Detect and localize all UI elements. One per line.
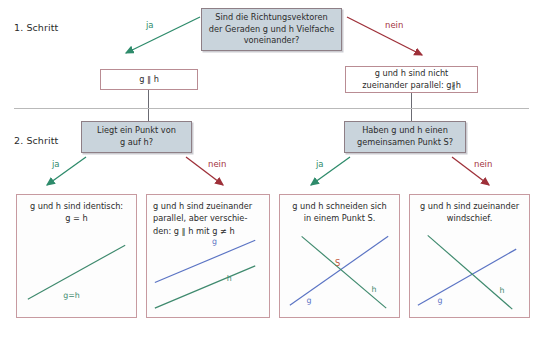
figure-label-h: h bbox=[499, 286, 504, 295]
decision-step1-line1: Sind die Richtungsvektoren bbox=[215, 12, 328, 22]
figure-intersecting: S g h bbox=[280, 195, 399, 317]
section-divider bbox=[14, 108, 529, 109]
edge-label-yes-step1: ja bbox=[146, 20, 154, 30]
decision-step2-left-line2: g auf h? bbox=[120, 137, 153, 147]
decision-step2-right-line2: gemeinsamen Punkt S? bbox=[357, 137, 453, 147]
result-box-parallel-distinct: g und h sind zueinander parallel, aber v… bbox=[146, 194, 270, 318]
figure-label-s: S bbox=[335, 258, 340, 268]
edge-label-yes-step2-right: ja bbox=[316, 159, 324, 169]
decision-step1-line2: der Geraden g und h Vielfache bbox=[209, 24, 334, 34]
arrow-yes-step1 bbox=[110, 14, 210, 64]
edge-label-no-step2-left: nein bbox=[208, 159, 226, 169]
arrow-yes-step2-right bbox=[300, 155, 360, 195]
figure-label-g: g bbox=[307, 296, 312, 305]
decision-step1-line3: voneinander? bbox=[244, 35, 300, 45]
result-box-not-parallel: g und h sind nicht zueinander parallel: … bbox=[345, 66, 478, 93]
decision-step2-left-line1: Liegt ein Punkt von bbox=[97, 125, 176, 135]
step-2-label: 2. Schritt bbox=[14, 135, 58, 146]
decision-box-step1: Sind die Richtungsvektoren der Geraden g… bbox=[201, 8, 342, 51]
result-box-identical: g und h sind identisch: g = h g=h bbox=[16, 194, 137, 318]
figure-label-g: g bbox=[212, 237, 217, 246]
decision-box-step2-left: Liegt ein Punkt von g auf h? bbox=[81, 121, 192, 153]
figure-identical: g=h bbox=[17, 195, 136, 317]
decision-step2-right-line1: Haben g und h einen bbox=[362, 125, 448, 135]
figure-skew: g h bbox=[410, 195, 529, 317]
result-box-skew: g und h sind zueinander windschief. g h bbox=[409, 194, 530, 318]
result-parallel-text: g ∥ h bbox=[139, 74, 159, 86]
figure-label-h: h bbox=[371, 285, 376, 294]
edge-label-no-step2-right: nein bbox=[474, 159, 492, 169]
arrow-yes-step2-left bbox=[36, 155, 96, 195]
connector-left-vertical bbox=[148, 90, 149, 122]
result-not-parallel-line1: g und h sind nicht bbox=[375, 68, 449, 78]
step-1-label: 1. Schritt bbox=[14, 22, 58, 33]
figure-label-gh: g=h bbox=[63, 291, 80, 300]
decision-box-step2-right: Haben g und h einen gemeinsamen Punkt S? bbox=[344, 121, 466, 153]
result-not-parallel-line2: zueinander parallel: g∦h bbox=[362, 80, 461, 90]
edge-label-yes-step2-left: ja bbox=[52, 159, 60, 169]
edge-label-no-step1: nein bbox=[385, 20, 403, 30]
flowchart-diagram: 1. Schritt Sind die Richtungsvektoren de… bbox=[0, 0, 539, 337]
figure-label-g: g bbox=[438, 296, 443, 305]
result-box-intersecting: g und h schneiden sich in einem Punkt S.… bbox=[279, 194, 400, 318]
figure-parallel-distinct: g h bbox=[147, 195, 269, 317]
result-box-parallel: g ∥ h bbox=[100, 69, 198, 90]
figure-label-h: h bbox=[227, 274, 232, 283]
